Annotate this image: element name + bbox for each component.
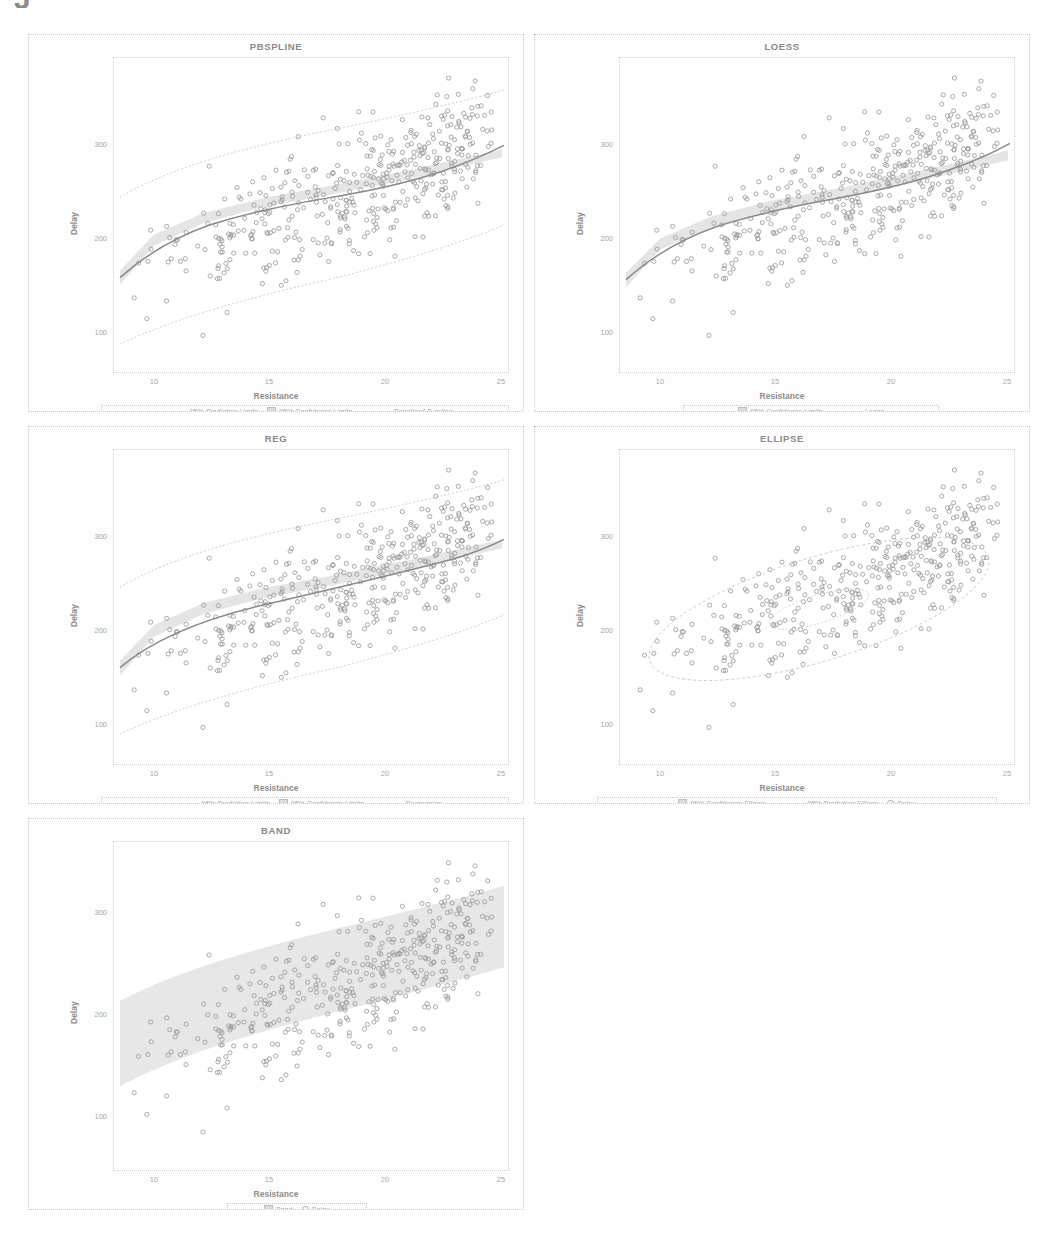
legend-label: 95% Prediction Limits (201, 800, 270, 804)
data-point (232, 1044, 236, 1048)
data-point (357, 896, 361, 900)
data-point (424, 574, 428, 578)
legend-entry-regression: Regression (373, 800, 442, 804)
xtick-loess-1: 15 (771, 377, 779, 386)
data-point (253, 643, 257, 647)
data-point (812, 174, 816, 178)
data-point (316, 241, 320, 245)
data-point (991, 521, 995, 525)
data-point (912, 589, 916, 593)
data-point (409, 534, 413, 538)
data-point (300, 247, 304, 251)
data-point (819, 577, 823, 581)
data-point (431, 529, 435, 533)
data-point (449, 135, 453, 139)
data-point (178, 259, 182, 263)
data-point (932, 155, 936, 159)
scatter-canvas-ellipse (620, 450, 1014, 764)
data-point (486, 485, 490, 489)
data-point (276, 1042, 280, 1046)
data-point (372, 169, 376, 173)
data-point (760, 220, 764, 224)
data-point (774, 595, 778, 599)
data-point (992, 93, 996, 97)
data-point (456, 878, 460, 882)
data-point (801, 208, 805, 212)
data-point (405, 163, 409, 167)
data-point (262, 176, 266, 180)
data-point (989, 113, 993, 117)
legend-label: 95% Prediction Limits (190, 408, 259, 412)
data-point (915, 563, 919, 567)
data-point (373, 585, 377, 589)
data-point (803, 593, 807, 597)
data-point (690, 622, 694, 626)
data-point (982, 593, 986, 597)
data-point (939, 162, 943, 166)
data-point (789, 573, 793, 577)
panel-title-reg: REG (29, 433, 523, 444)
data-point (895, 530, 899, 534)
data-point (442, 589, 446, 593)
data-point (932, 141, 936, 145)
data-point (296, 650, 300, 654)
data-point (803, 576, 807, 580)
data-point (769, 614, 773, 618)
data-point (714, 274, 718, 278)
data-point (476, 201, 480, 205)
data-point (976, 112, 980, 116)
data-point (671, 616, 675, 620)
data-point (730, 653, 734, 657)
data-point (679, 634, 683, 638)
data-point (458, 169, 462, 173)
data-point (956, 115, 960, 119)
data-point (977, 479, 981, 483)
data-point (870, 141, 874, 145)
data-point (877, 598, 881, 602)
xtick-ellipse-0: 10 (656, 769, 664, 778)
data-point (765, 599, 769, 603)
data-point (808, 560, 812, 564)
data-point (731, 310, 735, 314)
data-point (145, 709, 149, 713)
data-point (442, 987, 446, 991)
data-point (827, 116, 831, 120)
band-swatch-key-icon (738, 407, 747, 412)
data-point (790, 279, 794, 283)
data-point (841, 518, 845, 522)
data-point (807, 206, 811, 210)
data-point (884, 549, 888, 553)
data-point (785, 185, 789, 189)
data-point (820, 585, 824, 589)
data-point (789, 181, 793, 185)
data-point (441, 563, 445, 567)
data-point (446, 156, 450, 160)
data-point (372, 561, 376, 565)
data-point (932, 116, 936, 120)
confidence-ellipse (765, 581, 872, 638)
data-point (471, 177, 475, 181)
data-point (224, 261, 228, 265)
data-point (391, 225, 395, 229)
data-point (938, 150, 942, 154)
data-point (966, 153, 970, 157)
data-point (274, 560, 278, 564)
data-point (296, 922, 300, 926)
data-point (225, 702, 229, 706)
data-point (438, 548, 442, 552)
xtick-loess-3: 25 (1003, 377, 1011, 386)
data-point (964, 561, 968, 565)
data-point (376, 599, 380, 603)
data-point (351, 249, 355, 253)
data-point (910, 595, 914, 599)
data-point (446, 468, 450, 472)
cropped-heading-fragment: J (14, 0, 32, 8)
data-point (164, 1094, 168, 1098)
data-point (729, 197, 733, 201)
data-point (453, 191, 457, 195)
data-point (446, 983, 450, 987)
data-point (300, 639, 304, 643)
data-point (801, 662, 805, 666)
data-point (293, 571, 297, 575)
xlabel-reg: Resistance (29, 783, 523, 793)
